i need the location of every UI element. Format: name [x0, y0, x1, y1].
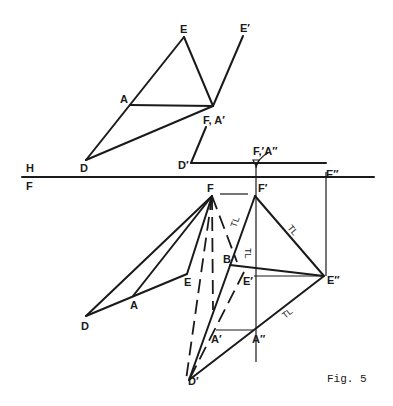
label-dprime-front: D′ [188, 375, 199, 387]
edge-dprime-up [191, 127, 206, 163]
descriptive-geometry-diagram: H F E E′ A F, A′ D D′ F,′A″ E″ [0, 0, 393, 406]
label-aprime-front: A′ [211, 333, 222, 345]
figure-caption: Fig. 5 [327, 373, 367, 385]
label-a-top: A [120, 93, 128, 105]
true-length-mark-1: TL [228, 215, 241, 228]
label-d-top: D [80, 162, 88, 174]
edge-e-d [86, 37, 184, 160]
edge-e-f [184, 37, 213, 106]
edge-fprime-edouble [255, 196, 324, 276]
true-length-mark-2: TL [243, 248, 253, 259]
label-eprime-top: E′ [240, 22, 250, 34]
label-b: B [223, 253, 231, 265]
label-fprime-adouble-top: F,′A″ [253, 145, 278, 157]
label-edouble-front: E″ [327, 274, 340, 286]
label-dprime-top: D′ [178, 159, 189, 171]
label-e-top: E [180, 23, 187, 35]
label-d-front: D [81, 320, 89, 332]
plane-label-f: F [26, 180, 33, 192]
label-f-aprime-top: F, A′ [203, 114, 225, 126]
label-adouble-front: A″ [252, 333, 266, 345]
front-view [86, 194, 324, 380]
edge-f-eprime [213, 36, 243, 106]
hidden-edge-eprime-dprime [189, 272, 244, 380]
label-a-front: A [130, 299, 138, 311]
edge-a-f [130, 105, 213, 106]
plane-label-h: H [26, 162, 34, 174]
label-edouble-top: E″ [326, 168, 339, 180]
label-eprime-front: E′ [243, 275, 253, 287]
hidden-edge-f-down [212, 196, 213, 310]
label-fprime-front: F′ [258, 182, 268, 194]
edge-d-f [86, 106, 213, 160]
label-e-front: E [184, 276, 191, 288]
label-f-front: F [207, 182, 214, 194]
